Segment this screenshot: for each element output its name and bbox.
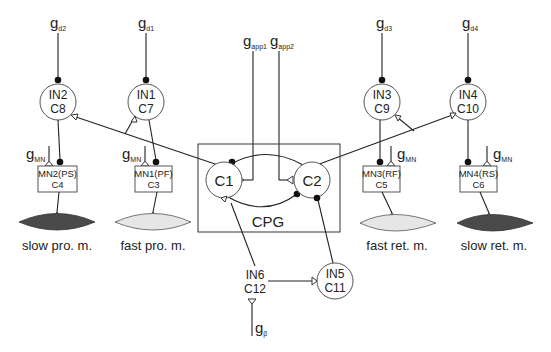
svg-text:IN3: IN3 (373, 88, 392, 102)
svg-text:C5: C5 (375, 179, 387, 190)
excitatory-synapse-icon (287, 176, 293, 184)
svg-text:C1: C1 (214, 172, 233, 189)
svg-text:MN4(RS): MN4(RS) (459, 168, 499, 179)
muscle-slow-ret: slow ret. m. (457, 215, 533, 254)
svg-text:C12: C12 (244, 282, 266, 296)
cpg-module: C1 C2 CPG (198, 144, 340, 232)
input-gmn-mn2: gMN (26, 145, 53, 166)
motoneuron-mn2: MN2(PS) C4 (38, 166, 77, 192)
excitatory-synapse-icon (248, 299, 256, 304)
svg-text:C4: C4 (51, 179, 63, 190)
interneuron-in6: IN6 C12 (244, 268, 266, 296)
svg-text:slow ret. m.: slow ret. m. (461, 238, 527, 253)
motoneuron-mn3: MN3(RF) C5 (362, 166, 401, 192)
svg-text:gd1: gd1 (138, 14, 154, 32)
cpg-circuit-diagram: gd2 gd1 gd3 gd4 gapp1 gapp2 IN2 C8 (0, 0, 551, 352)
svg-text:C11: C11 (324, 281, 345, 295)
input-gbeta: gβ (248, 299, 267, 338)
svg-text:fast ret. m.: fast ret. m. (366, 238, 427, 253)
input-gmn-mn1: gMN (122, 145, 149, 166)
inhibitory-synapse-icon (465, 159, 472, 166)
inhibitory-synapse-icon (379, 77, 386, 84)
svg-text:gβ: gβ (255, 319, 267, 338)
input-gd2: gd2 (50, 14, 66, 83)
svg-text:gMN: gMN (122, 145, 141, 163)
inhibitory-synapse-icon (465, 77, 472, 84)
input-gapp2: gapp2 (270, 32, 294, 184)
excitatory-synapse-icon (71, 114, 78, 120)
excitatory-synapse-icon (312, 277, 317, 285)
inhibitory-synapse-icon (314, 195, 321, 202)
excitatory-synapse-icon (483, 161, 491, 166)
inhibitory-synapse-icon (55, 77, 62, 84)
svg-text:IN6: IN6 (246, 268, 265, 282)
input-gd1: gd1 (138, 14, 154, 83)
svg-text:MN2(PS): MN2(PS) (38, 168, 77, 179)
interneuron-in5: IN5 C11 (317, 263, 353, 299)
input-gmn-mn3: gMN (387, 145, 416, 166)
cpg-cell-c1: C1 (206, 162, 242, 198)
svg-text:MN3(RF): MN3(RF) (362, 168, 401, 179)
svg-text:C3: C3 (147, 179, 159, 190)
inhibitory-synapse-icon (57, 159, 64, 166)
excitatory-synapse-icon (387, 161, 395, 166)
svg-text:C6: C6 (472, 179, 484, 190)
interneuron-in1: IN1 C7 (128, 84, 164, 120)
motoneuron-mn1: MN1(PF) C3 (134, 166, 173, 192)
cpg-cell-c2: C2 (294, 162, 330, 198)
svg-text:gMN: gMN (493, 145, 512, 163)
muscle-fast-ret: fast ret. m. (360, 215, 436, 254)
svg-text:C10: C10 (457, 102, 479, 116)
svg-text:gd4: gd4 (462, 14, 478, 32)
svg-text:IN2: IN2 (49, 88, 68, 102)
svg-text:gMN: gMN (397, 145, 416, 163)
svg-text:C9: C9 (374, 102, 390, 116)
input-gd3: gd3 (376, 14, 392, 83)
svg-text:fast pro. m.: fast pro. m. (120, 238, 185, 253)
svg-text:C8: C8 (50, 102, 66, 116)
cpg-label: CPG (252, 213, 285, 230)
svg-text:MN1(PF): MN1(PF) (134, 168, 173, 179)
motoneuron-mn4: MN4(RS) C6 (459, 166, 499, 192)
inhibitory-synapse-icon (143, 77, 150, 84)
svg-text:slow pro. m.: slow pro. m. (22, 238, 92, 253)
excitatory-synapse-icon (141, 161, 149, 166)
inhibitory-synapse-icon (377, 159, 384, 166)
svg-text:gd2: gd2 (50, 14, 66, 32)
svg-text:IN4: IN4 (459, 88, 478, 102)
svg-text:gapp1: gapp1 (243, 32, 267, 51)
excitatory-synapse-icon (45, 161, 53, 166)
input-gapp1: gapp1 (238, 32, 267, 184)
svg-text:gd3: gd3 (376, 14, 392, 32)
svg-text:IN5: IN5 (326, 267, 345, 281)
input-gmn-mn4: gMN (483, 145, 512, 166)
svg-text:IN1: IN1 (137, 88, 156, 102)
inhibitory-synapse-icon (153, 159, 160, 166)
muscle-slow-pro: slow pro. m. (19, 214, 95, 254)
input-gd4: gd4 (462, 14, 478, 83)
svg-text:gMN: gMN (26, 145, 45, 163)
svg-text:gapp2: gapp2 (270, 32, 294, 51)
muscle-fast-pro: fast pro. m. (115, 214, 191, 254)
svg-text:C7: C7 (138, 102, 154, 116)
svg-text:C2: C2 (302, 172, 321, 189)
excitatory-synapse-icon (450, 113, 456, 119)
